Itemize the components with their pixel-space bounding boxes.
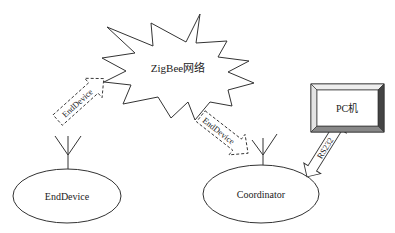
rs232-label: RS232	[315, 136, 336, 161]
pc-label: PC机	[336, 102, 358, 114]
coordinator-label: Coordinator	[237, 189, 286, 200]
arrow-enddevice-to-network: EndDevice	[49, 69, 112, 130]
zigbee-network-diagram: ZigBee网络 EndDevice EndDevice EndDevice C…	[0, 0, 395, 233]
arrow-network-to-coordinator: EndDevice	[193, 106, 256, 163]
network-label: ZigBee网络	[151, 61, 205, 74]
arrow-label: EndDevice	[201, 115, 237, 146]
end-device-label: EndDevice	[45, 191, 90, 202]
antenna-icon	[55, 136, 81, 170]
pc-node: PC机	[311, 84, 384, 132]
arrow-label: EndDevice	[60, 87, 95, 120]
end-device-node: EndDevice	[13, 169, 121, 223]
coordinator-node: Coordinator	[203, 165, 319, 223]
zigbee-network-burst: ZigBee网络	[102, 14, 254, 120]
